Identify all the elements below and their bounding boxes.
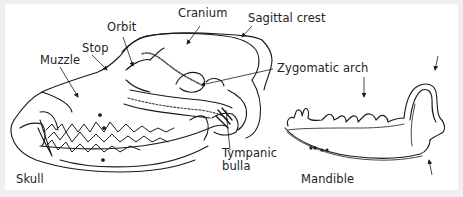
- label-zygomatic-arch: Zygomatic arch: [277, 62, 369, 75]
- label-sagittal-crest: Sagittal crest: [248, 12, 326, 25]
- caption-mandible: Mandible: [301, 173, 354, 186]
- label-orbit: Orbit: [107, 21, 136, 34]
- label-stop: Stop: [82, 42, 109, 55]
- label-muzzle: Muzzle: [40, 54, 80, 67]
- mandible-drawing: [285, 84, 445, 160]
- label-tympanic-bulla-line2: bulla: [222, 160, 251, 173]
- caption-skull: Skull: [16, 173, 44, 186]
- label-cranium: Cranium: [178, 7, 227, 20]
